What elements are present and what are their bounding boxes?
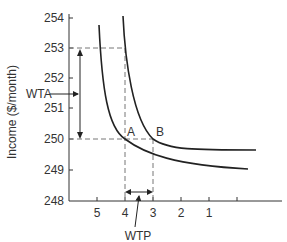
- x-ticks: [97, 197, 237, 201]
- wta-arrowhead-down: [77, 132, 83, 139]
- wtp-label: WTP: [125, 229, 152, 242]
- wtp-arrowhead-right: [147, 189, 153, 195]
- x-tick-1: 1: [206, 206, 213, 220]
- y-tick-250: 250: [44, 132, 64, 146]
- y-tick-251: 251: [44, 101, 64, 115]
- point-a-label: A: [127, 125, 135, 139]
- x-tick-3: 3: [150, 206, 157, 220]
- wta-label: WTA: [26, 87, 52, 101]
- y-tick-249: 249: [44, 163, 64, 177]
- wtp-arrowhead-left: [125, 189, 131, 195]
- x-tick-2: 2: [178, 206, 185, 220]
- y-tick-252: 252: [44, 71, 64, 85]
- x-tick-5: 5: [94, 206, 101, 220]
- y-axis-title: Income ($/month): [5, 65, 19, 159]
- upper-indifference-curve: [123, 16, 256, 150]
- point-b-label: B: [156, 125, 164, 139]
- wta-arrowhead-up: [77, 49, 83, 56]
- y-tick-253: 253: [44, 41, 64, 55]
- reference-lines: [69, 48, 153, 201]
- y-tick-254: 254: [44, 11, 64, 25]
- x-tick-4: 4: [122, 206, 129, 220]
- y-tick-248: 248: [44, 194, 64, 208]
- indifference-diagram: Income ($/month) 254 253 252 251 250 249…: [0, 0, 287, 242]
